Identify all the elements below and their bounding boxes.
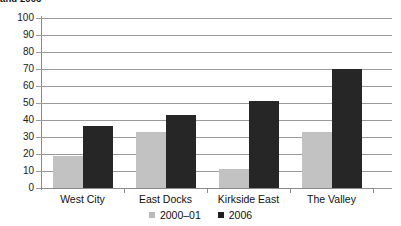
y-tick-mark-90 xyxy=(373,35,392,36)
bar-east-docks-2006 xyxy=(166,115,196,188)
y-axis-label-50: 50 xyxy=(0,98,34,108)
y-tick-mark-80 xyxy=(373,52,392,53)
y-tick-stub-40 xyxy=(36,120,41,121)
y-axis-label-100: 100 xyxy=(0,13,34,23)
y-axis-label-20: 20 xyxy=(0,149,34,159)
y-tick-stub-0 xyxy=(36,188,41,189)
gridline-90 xyxy=(41,35,373,36)
y-tick-stub-70 xyxy=(36,69,41,70)
y-tick-mark-50 xyxy=(373,103,392,104)
y-tick-stub-100 xyxy=(36,18,41,19)
x-axis-line xyxy=(41,188,392,189)
gridline-70 xyxy=(41,69,373,70)
chart-title: and 2006 xyxy=(0,0,220,5)
bar-east-docks-2000-01 xyxy=(136,132,166,188)
legend-item-2006[interactable]: 2006 xyxy=(218,210,252,221)
y-axis-label-70: 70 xyxy=(0,64,34,74)
y-tick-mark-10 xyxy=(373,171,392,172)
y-tick-stub-50 xyxy=(36,103,41,104)
legend-item-2000-01[interactable]: 2000–01 xyxy=(149,210,201,221)
y-tick-stub-60 xyxy=(36,86,41,87)
legend-swatch-2006-icon xyxy=(218,212,224,218)
category-separator-2 xyxy=(207,188,208,193)
bar-kirkside-east-2000-01 xyxy=(219,169,249,188)
y-tick-mark-70 xyxy=(373,69,392,70)
chart-legend: 2000–012006 xyxy=(0,210,401,221)
y-axis-label-30: 30 xyxy=(0,132,34,142)
y-axis-label-0: 0 xyxy=(0,183,34,193)
gridline-60 xyxy=(41,86,373,87)
gridline-100 xyxy=(41,18,373,19)
y-axis-label-80: 80 xyxy=(0,47,34,57)
legend-label-2006: 2006 xyxy=(229,210,252,221)
y-axis-label-90: 90 xyxy=(0,30,34,40)
y-tick-stub-20 xyxy=(36,154,41,155)
gridline-40 xyxy=(41,120,373,121)
bar-the-valley-2000-01 xyxy=(302,132,332,188)
gridline-50 xyxy=(41,103,373,104)
category-label-the-valley: The Valley xyxy=(272,194,392,205)
legend-swatch-2000-01-icon xyxy=(149,212,155,218)
y-tick-mark-0 xyxy=(373,188,392,189)
bar-west-city-2006 xyxy=(83,126,113,188)
y-tick-stub-90 xyxy=(36,35,41,36)
y-axis-label-10: 10 xyxy=(0,166,34,176)
category-separator-1 xyxy=(124,188,125,193)
bar-chart: and 2006 0102030405060708090100 West Cit… xyxy=(0,0,401,226)
y-tick-stub-80 xyxy=(36,52,41,53)
y-tick-mark-20 xyxy=(373,154,392,155)
category-separator-3 xyxy=(290,188,291,193)
y-tick-mark-100 xyxy=(373,18,392,19)
gridline-80 xyxy=(41,52,373,53)
y-axis-label-40: 40 xyxy=(0,115,34,125)
bar-the-valley-2006 xyxy=(332,69,362,188)
legend-label-2000-01: 2000–01 xyxy=(160,210,201,221)
bar-kirkside-east-2006 xyxy=(249,101,279,188)
y-tick-mark-40 xyxy=(373,120,392,121)
category-separator-end xyxy=(373,188,374,193)
y-axis-label-60: 60 xyxy=(0,81,34,91)
y-tick-stub-10 xyxy=(36,171,41,172)
y-tick-mark-60 xyxy=(373,86,392,87)
y-tick-stub-30 xyxy=(36,137,41,138)
y-tick-mark-30 xyxy=(373,137,392,138)
plot-area xyxy=(41,18,373,188)
bar-west-city-2000-01 xyxy=(53,156,83,188)
